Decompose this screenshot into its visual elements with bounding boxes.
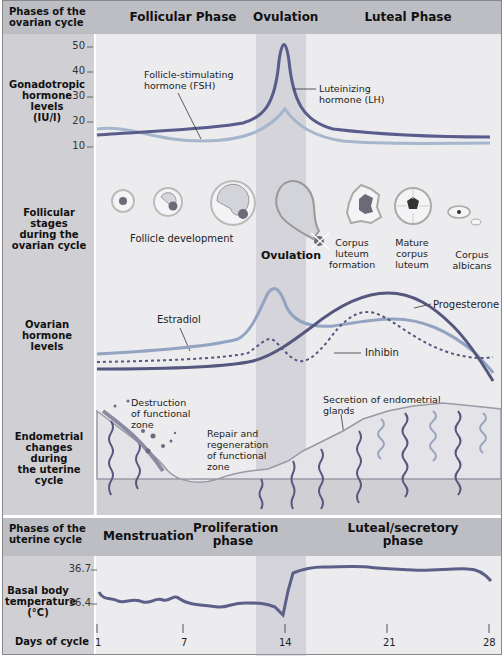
diagram-graphics: [3, 1, 502, 656]
menstrual-cycle-diagram: Phases of the ovarian cycle Follicular P…: [2, 0, 502, 655]
section-divider: [3, 515, 501, 518]
fsh-curve: [97, 109, 490, 144]
bbt-curve: [99, 567, 491, 615]
endometrium-illustration: [97, 400, 501, 518]
follicle-stage-icons: [112, 181, 481, 249]
progesterone-curve: [97, 293, 493, 381]
lh-curve: [97, 45, 490, 138]
